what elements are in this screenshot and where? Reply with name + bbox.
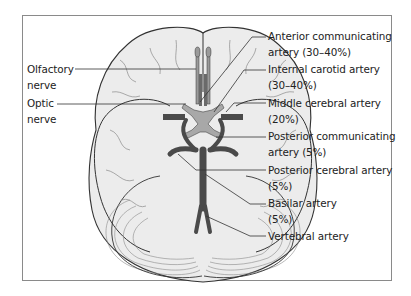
label-posterior-cerebral-artery: Posterior cerebral artery (5%) <box>268 163 392 194</box>
label-posterior-communicating-artery: Posterior communicating artery (5%) <box>268 129 396 160</box>
right-mca <box>221 114 243 120</box>
label-anterior-communicating-artery: Anterior communicating artery (30–40%) <box>268 29 392 60</box>
left-mca <box>163 114 185 120</box>
label-internal-carotid-artery: Internal carotid artery (30–40%) <box>268 62 380 93</box>
label-basilar-artery: Basilar artery (5%) <box>268 196 337 227</box>
label-olfactory-nerve: Olfactory nerve <box>27 62 74 93</box>
label-optic-nerve: Optic nerve <box>27 96 56 127</box>
label-middle-cerebral-artery: Middle cerebral artery (20%) <box>268 96 381 127</box>
label-vertebral-artery: Vertebral artery <box>268 229 349 245</box>
